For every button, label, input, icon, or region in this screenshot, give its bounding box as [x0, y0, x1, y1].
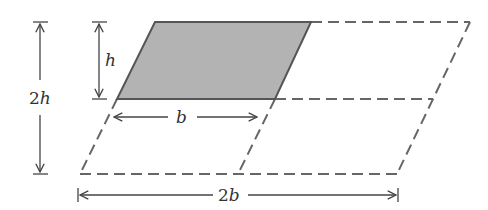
- label-2b: 2b: [218, 185, 240, 205]
- label-2h: 2h: [29, 88, 51, 108]
- parallelogram-scaling-diagram: 2h h b 2b: [0, 0, 488, 210]
- shaded-parallelogram: [117, 22, 311, 99]
- label-h: h: [105, 50, 116, 70]
- label-b: b: [176, 107, 187, 127]
